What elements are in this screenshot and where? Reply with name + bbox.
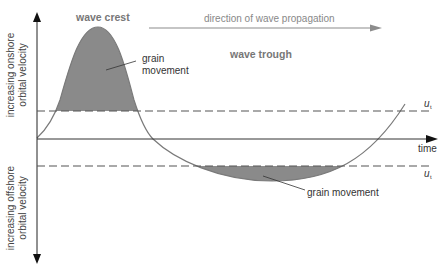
trough-grain-label: grain movement	[307, 187, 379, 198]
svg-text:increasing offshore: increasing offshore	[5, 165, 16, 250]
svg-text:t: t	[430, 174, 432, 180]
crest-grain-label-line1: grain	[142, 53, 164, 64]
trough-grain-movement-area	[153, 104, 405, 181]
y-axis-down-arrow-icon	[33, 254, 41, 264]
wave-crest-label: wave crest	[75, 11, 130, 23]
onshore-velocity-label: increasing onshore orbital velocity	[5, 32, 28, 117]
offshore-velocity-label: increasing offshore orbital velocity	[5, 165, 28, 250]
svg-text:orbital velocity: orbital velocity	[17, 176, 28, 239]
time-label: time	[418, 143, 437, 154]
lower-threshold-label: u t	[424, 168, 432, 180]
svg-text:t: t	[430, 104, 432, 110]
time-axis-arrow-icon	[426, 135, 438, 143]
wave-velocity-diagram: wave crest direction of wave propagation…	[0, 0, 442, 273]
direction-label: direction of wave propagation	[204, 13, 335, 24]
wave-trough-label: wave trough	[229, 48, 292, 60]
crest-grain-label-line2: movement	[142, 65, 189, 76]
svg-text:increasing onshore: increasing onshore	[5, 32, 16, 117]
propagation-arrow-head-icon	[370, 25, 382, 32]
upper-threshold-label: u t	[424, 98, 432, 110]
crest-grain-movement-area	[37, 27, 153, 139]
y-axis-up-arrow-icon	[33, 12, 41, 22]
svg-text:orbital velocity: orbital velocity	[17, 43, 28, 106]
